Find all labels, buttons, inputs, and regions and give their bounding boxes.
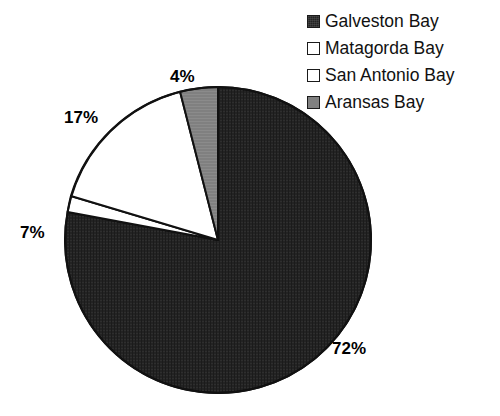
legend-swatch-icon-galveston-bay [307,15,320,28]
data-label-galveston-bay: 72% [332,340,366,357]
legend-swatch-icon-aransas-bay [307,96,320,109]
legend-item-san-antonio-bay: San Antonio Bay [307,63,497,88]
legend-label-galveston-bay: Galveston Bay [325,13,439,31]
legend-item-matagorda-bay: Matagorda Bay [307,36,497,61]
data-label-san-antonio-bay: 7% [20,224,45,241]
data-label-aransas-bay: 4% [170,68,195,85]
legend-label-matagorda-bay: Matagorda Bay [325,40,444,58]
pie-chart-figure: 72% 7% 17% 4% Galveston Bay Matagorda Ba… [0,0,500,416]
legend-swatch-icon-matagorda-bay [307,42,320,55]
legend-label-san-antonio-bay: San Antonio Bay [325,67,454,85]
legend-swatch-icon-san-antonio-bay [307,69,320,82]
legend-item-aransas-bay: Aransas Bay [307,90,497,115]
legend-item-galveston-bay: Galveston Bay [307,9,497,34]
legend-label-aransas-bay: Aransas Bay [325,94,424,112]
chart-legend: Galveston Bay Matagorda Bay San Antonio … [307,9,497,117]
data-label-matagorda-bay: 17% [64,109,98,126]
